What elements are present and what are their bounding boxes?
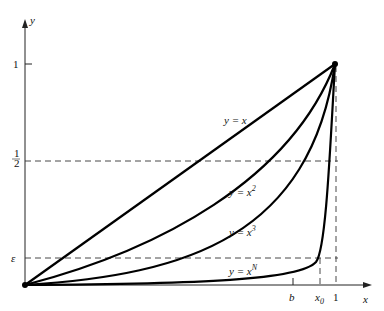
- curves: [25, 64, 335, 285]
- figure-canvas: y x 1 1 2 ε b x0 1 y = x y = x2 y = x3 y…: [0, 0, 384, 311]
- power-curves-figure: y x 1 1 2 ε b x0 1 y = x y = x2 y = x3 y…: [0, 0, 384, 311]
- y-tick-half-den: 2: [14, 157, 20, 169]
- x-tick-b: b: [289, 291, 295, 303]
- label-y-x: y = x: [223, 114, 247, 126]
- curve-y-x: [25, 64, 335, 285]
- y-tick-epsilon: ε: [11, 252, 16, 264]
- y-axis-arrow-icon: [22, 19, 28, 28]
- x-axis-label: x: [362, 293, 368, 305]
- label-y-x2: y = x2: [228, 184, 256, 198]
- x-tick-1: 1: [333, 291, 339, 303]
- point-1-1: [332, 61, 338, 67]
- label-y-xN: y = xN: [228, 263, 258, 277]
- y-tick-1: 1: [13, 58, 19, 70]
- y-axis-label: y: [29, 14, 35, 26]
- origin-point: [22, 282, 28, 288]
- label-y-x3: y = x3: [228, 224, 256, 238]
- x-tick-x0: x0: [314, 291, 324, 306]
- x-axis-arrow-icon: [363, 282, 372, 288]
